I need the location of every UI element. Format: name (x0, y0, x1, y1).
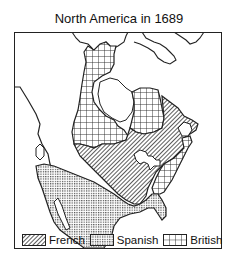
legend-label-british: British (190, 234, 222, 246)
island (36, 144, 44, 160)
legend-item-british: British (163, 234, 222, 246)
british-grid-swatch-icon (163, 234, 187, 246)
spanish-dots-swatch-icon (90, 234, 114, 246)
legend-item-spanish: Spanish (90, 234, 159, 246)
british-east-bay (130, 88, 164, 134)
map-legend: French Spanish British (22, 233, 227, 247)
arctic-coast-east (134, 32, 176, 64)
map-title: North America in 1689 (0, 11, 238, 26)
north-america-map (14, 32, 222, 249)
arctic-coast-east2 (174, 32, 204, 44)
legend-label-french: French (49, 234, 85, 246)
legend-label-spanish: Spanish (117, 234, 159, 246)
french-hatch-swatch-icon (22, 234, 46, 246)
legend-item-french: French (22, 234, 85, 246)
